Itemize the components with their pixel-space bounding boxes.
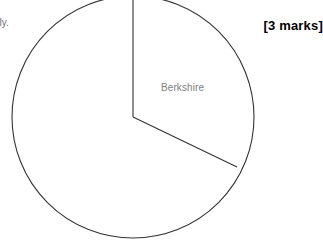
marks-label: [3 marks]: [263, 18, 323, 33]
pie-slice-label-berkshire: Berkshire: [161, 82, 204, 94]
question-text-fragment: ely.: [0, 16, 9, 29]
question-page: ely. [3 marks] Berkshire: [0, 0, 323, 249]
pie-radius-line-diagonal: [133, 117, 237, 167]
pie-chart: [0, 0, 323, 249]
